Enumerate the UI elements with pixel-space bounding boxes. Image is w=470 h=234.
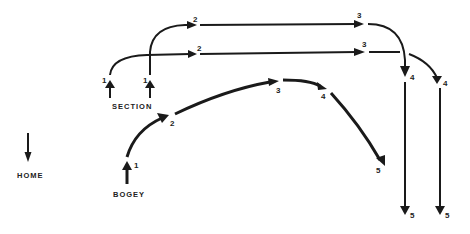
section-upper-point-2: 2 [193, 15, 198, 24]
section-lower-point-4: 4 [443, 79, 448, 88]
bogey-point-2: 2 [170, 119, 175, 128]
section-upper-point-1: 1 [143, 76, 148, 85]
section-lower-point-3: 3 [362, 40, 367, 49]
bogey-point-1: 1 [134, 161, 139, 170]
home-arrow [25, 133, 32, 162]
section-lower-path [105, 48, 445, 215]
bogey-point-5: 5 [376, 166, 381, 175]
bogey-path [122, 78, 385, 184]
section-label: SECTION [112, 102, 152, 111]
home-label: HOME [17, 171, 44, 180]
section-lower-point-2: 2 [197, 44, 202, 53]
section-upper-point-4: 4 [410, 73, 415, 82]
bogey-point-4: 4 [321, 92, 326, 101]
section-upper-point-3: 3 [357, 11, 362, 20]
section-upper-point-5: 5 [410, 211, 415, 220]
bogey-label: BOGEY [113, 190, 145, 199]
section-lower-point-5: 5 [445, 211, 450, 220]
bogey-point-3: 3 [276, 86, 281, 95]
section-lower-point-1: 1 [102, 76, 107, 85]
formation-diagram: HOME [0, 0, 470, 234]
section-upper-path [145, 20, 410, 215]
